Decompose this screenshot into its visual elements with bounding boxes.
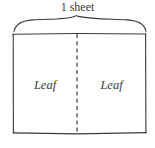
brace-right-arm	[78, 16, 146, 31]
brace-apex	[75, 16, 79, 17]
diagram-canvas	[0, 0, 155, 148]
leaf-label-right: Leaf	[77, 79, 146, 92]
leaf-label-left: Leaf	[13, 79, 77, 92]
sheet-top-edge	[13, 34, 145, 35]
sheet-leaf-diagram: 1 sheet Leaf Leaf	[0, 0, 155, 148]
sheet-bottom-edge	[13, 133, 146, 134]
brace-left-arm	[14, 16, 75, 31]
sheet-brace	[14, 16, 146, 32]
sheet-label: 1 sheet	[0, 1, 155, 13]
